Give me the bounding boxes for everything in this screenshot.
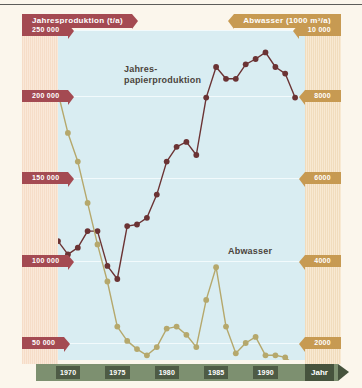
left-y-tick: 100 000 — [22, 255, 68, 267]
right-y-tick: 2000 — [305, 337, 341, 349]
x-axis-tick: 1980 — [155, 366, 179, 379]
x-axis-tick: 1985 — [204, 366, 228, 379]
data-point — [134, 346, 140, 352]
data-point — [273, 64, 279, 70]
x-axis-label: Jahr — [305, 364, 334, 381]
series-line — [58, 52, 295, 279]
left-y-tick: 250 000 — [22, 24, 68, 36]
data-point — [144, 352, 150, 358]
top-rule — [0, 4, 362, 5]
x-axis-tick: 1975 — [105, 366, 129, 379]
data-point — [223, 324, 229, 330]
data-point — [154, 192, 160, 198]
right-y-tick: 10 000 — [299, 24, 341, 36]
data-point — [243, 340, 249, 346]
right-y-tick: 8000 — [305, 90, 341, 102]
production-label-line2: papierproduktion — [124, 75, 201, 85]
data-point — [144, 215, 150, 221]
data-point — [105, 279, 111, 285]
data-point — [233, 76, 239, 82]
data-point — [184, 332, 190, 338]
right-axis-band — [305, 18, 341, 364]
series-line — [58, 93, 295, 360]
data-point — [263, 50, 269, 56]
data-point — [253, 334, 259, 340]
data-point — [292, 95, 298, 101]
left-axis-band — [22, 18, 58, 364]
data-point — [233, 350, 239, 356]
data-point — [174, 324, 180, 330]
x-axis-tick: 1990 — [253, 366, 277, 379]
data-point — [85, 200, 91, 206]
data-point — [282, 71, 288, 77]
data-point — [65, 130, 71, 136]
plot-area: Jahres- papierproduktion Abwasser — [58, 30, 305, 360]
data-point — [184, 139, 190, 145]
data-point — [75, 245, 81, 251]
x-axis-arrow-icon — [338, 364, 349, 381]
data-point — [213, 64, 219, 70]
data-point — [203, 297, 209, 303]
x-axis-band — [36, 364, 338, 381]
data-point — [282, 355, 288, 361]
left-y-tick: 150 000 — [22, 172, 68, 184]
data-point — [174, 144, 180, 150]
left-y-tick: 50 000 — [22, 337, 64, 349]
data-point — [203, 95, 209, 101]
data-point — [114, 276, 120, 282]
wastewater-series-label: Abwasser — [228, 246, 272, 257]
data-point — [75, 159, 81, 165]
data-point — [134, 222, 140, 228]
data-point — [58, 238, 61, 244]
data-point — [213, 264, 219, 270]
data-point — [243, 61, 249, 67]
data-point — [273, 352, 279, 358]
data-point — [85, 228, 91, 234]
production-label-line1: Jahres- — [124, 64, 157, 74]
data-point — [223, 76, 229, 82]
data-point — [253, 56, 259, 62]
data-point — [154, 344, 160, 350]
production-series-label: Jahres- papierproduktion — [124, 64, 201, 86]
data-point — [95, 242, 101, 248]
data-point — [164, 326, 170, 332]
data-point — [105, 263, 111, 269]
right-y-tick: 6000 — [305, 172, 341, 184]
data-point — [124, 223, 130, 229]
data-point — [164, 159, 170, 165]
data-point — [124, 338, 130, 344]
data-point — [193, 344, 199, 350]
x-axis-tick: 1970 — [56, 366, 80, 379]
data-point — [193, 152, 199, 158]
data-point — [114, 324, 120, 330]
left-y-tick: 200 000 — [22, 90, 68, 102]
data-point — [263, 352, 269, 358]
right-y-tick: 4000 — [305, 255, 341, 267]
chart-figure: Jahresproduktion (t/a) Abwasser (1000 m³… — [0, 0, 362, 388]
